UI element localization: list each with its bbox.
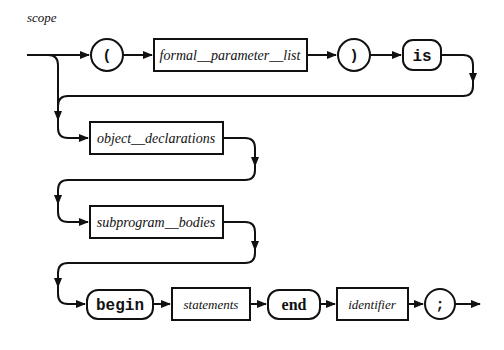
- object-declarations-label: object__declarations: [97, 131, 216, 146]
- end-keyword-label: end: [282, 296, 307, 313]
- turn-down-line: [223, 138, 255, 166]
- formal-parameter-list-label: formal__parameter__list: [160, 48, 302, 63]
- row-1: ( formal__parameter__list ) is: [27, 39, 473, 106]
- turn-down-line: [223, 222, 255, 250]
- is-keyword-label: is: [412, 48, 431, 66]
- semicolon-label: ;: [435, 297, 444, 314]
- row-4: begin statements end identifier ;: [58, 285, 480, 320]
- diagram-title: scope: [27, 10, 57, 25]
- statements-label: statements: [184, 297, 239, 312]
- turn-down-line: [441, 55, 473, 82]
- bypass-branch-line: [48, 55, 58, 120]
- begin-keyword-label: begin: [96, 297, 144, 315]
- close-paren-label: ): [349, 48, 358, 65]
- return-line: [58, 80, 473, 106]
- row-2: object__declarations: [58, 118, 255, 204]
- scope-syntax-diagram: scope ( formal__parameter__list ) is obj…: [0, 0, 504, 350]
- connector: [58, 285, 85, 304]
- return-line: [58, 164, 255, 204]
- open-paren-label: (: [102, 48, 111, 65]
- identifier-label: identifier: [348, 297, 397, 312]
- row-3: subprogram__bodies: [58, 202, 255, 287]
- connector: [58, 202, 88, 222]
- return-line: [58, 248, 255, 287]
- connector: [58, 118, 88, 138]
- subprogram-bodies-label: subprogram__bodies: [97, 215, 216, 230]
